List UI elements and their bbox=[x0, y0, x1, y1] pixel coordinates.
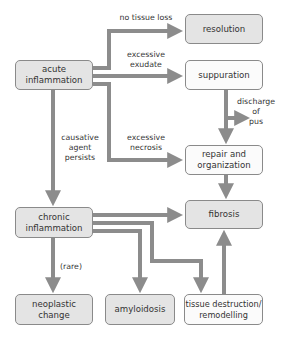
node-chronic-inflammation: chronic inflammation bbox=[15, 207, 93, 238]
label-discharge-of-pus: discharge of pus bbox=[232, 97, 280, 127]
node-suppuration: suppuration bbox=[185, 60, 263, 90]
node-acute-inflammation: acute inflammation bbox=[15, 60, 93, 90]
node-resolution: resolution bbox=[185, 14, 263, 44]
label-no-tissue-loss: no tissue loss bbox=[112, 13, 180, 23]
node-fibrosis: fibrosis bbox=[185, 200, 263, 229]
node-repair-organization: repair and organization bbox=[185, 145, 263, 175]
arrow-chronic-to-amyloidosis bbox=[93, 231, 140, 286]
node-tissue-destruction: tissue destruction/ remodelling bbox=[184, 294, 263, 325]
label-causative-agent-persists: causative agent persists bbox=[56, 133, 104, 163]
node-neoplastic-change: neoplastic change bbox=[15, 294, 93, 325]
label-excessive-necrosis: excessive necrosis bbox=[112, 133, 180, 153]
node-amyloidosis: amyloidosis bbox=[105, 294, 175, 325]
label-excessive-exudate: excessive exudate bbox=[112, 50, 180, 70]
label-rare: (rare) bbox=[56, 262, 86, 272]
